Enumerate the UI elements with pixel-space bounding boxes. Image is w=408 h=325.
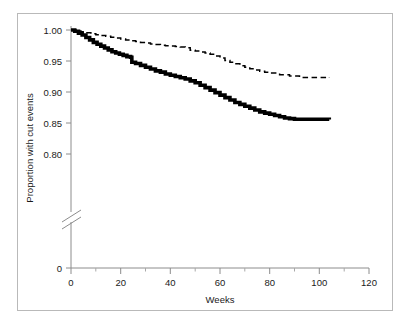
dashed-survival-curve	[71, 30, 329, 78]
x-tick-label: 100	[311, 277, 327, 288]
x-tick-label: 20	[115, 277, 126, 288]
x-axis-tick-labels: 0 20 40 60 80 100 120	[68, 277, 377, 288]
x-axis-major-ticks	[71, 268, 369, 274]
x-tick-label: 0	[68, 277, 73, 288]
x-tick-label: 40	[165, 277, 176, 288]
figure-root: 1.00 0.95 0.90 0.85 0.80 0	[0, 0, 408, 325]
y-tick-label: 1.00	[44, 25, 63, 36]
x-tick-label: 80	[264, 277, 275, 288]
x-tick-label: 120	[361, 277, 377, 288]
kaplan-meier-plot: 1.00 0.95 0.90 0.85 0.80 0	[0, 0, 408, 325]
solid-survival-curve	[71, 30, 329, 120]
y-axis-title: Proportion with cut events	[24, 93, 35, 203]
y-tick-label: 0.90	[44, 87, 63, 98]
x-axis-title: Weeks	[206, 294, 235, 305]
y-tick-label: 0.80	[44, 149, 63, 160]
y-axis-ticks	[66, 30, 71, 268]
y-tick-label: 0.85	[44, 118, 63, 129]
x-tick-label: 60	[215, 277, 226, 288]
y-tick-label: 0.95	[44, 56, 63, 67]
y-tick-label: 0	[57, 263, 62, 274]
y-axis-tick-labels: 1.00 0.95 0.90 0.85 0.80 0	[44, 25, 63, 274]
